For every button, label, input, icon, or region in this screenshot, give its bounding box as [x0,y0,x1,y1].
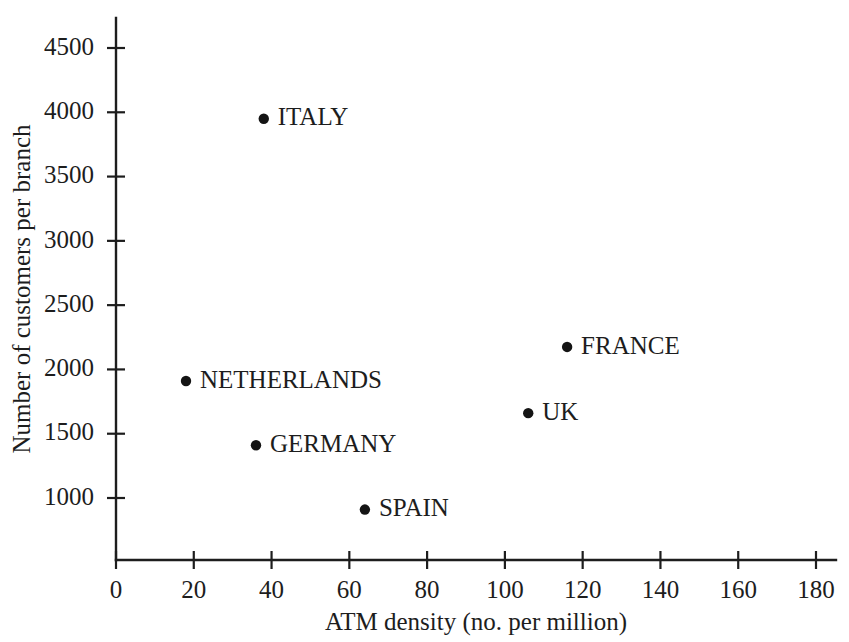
data-point-marker [360,504,370,514]
scatter-chart: 10001500200025003000350040004500 0204060… [0,0,849,642]
data-point-label: FRANCE [581,332,680,359]
data-point-label: ITALY [278,103,348,130]
y-tick-label: 3500 [44,161,94,188]
data-point-label: UK [542,398,578,425]
x-tick-label: 0 [110,576,123,603]
x-tick-label: 40 [259,576,284,603]
axes-group [116,18,836,560]
x-axis-title: ATM density (no. per million) [325,608,627,636]
chart-canvas: 10001500200025003000350040004500 0204060… [0,0,849,642]
x-tick-label: 140 [642,576,680,603]
data-point-label: NETHERLANDS [200,366,382,393]
x-tick-label: 120 [564,576,602,603]
x-tick-label: 160 [719,576,757,603]
x-tick-label: 80 [415,576,440,603]
y-axis-ticks: 10001500200025003000350040004500 [44,33,125,510]
data-point-marker [259,114,269,124]
y-tick-label: 3000 [44,226,94,253]
x-tick-label: 100 [486,576,524,603]
x-tick-label: 60 [337,576,362,603]
data-points-group: ITALYFRANCENETHERLANDSUKGERMANYSPAIN [181,103,680,521]
x-tick-label: 180 [797,576,835,603]
data-point-label: GERMANY [270,430,396,457]
x-tick-label: 20 [181,576,206,603]
data-point-marker [562,342,572,352]
x-axis-ticks: 020406080100120140160180 [110,551,835,603]
data-point-marker [523,408,533,418]
y-tick-label: 4000 [44,97,94,124]
y-tick-label: 2500 [44,290,94,317]
data-point-marker [181,376,191,386]
y-tick-label: 1500 [44,418,94,445]
y-tick-label: 1000 [44,483,94,510]
y-tick-label: 4500 [44,33,94,60]
data-point-label: SPAIN [379,494,449,521]
y-axis-title: Number of customers per branch [8,124,35,454]
data-point-marker [251,440,261,450]
y-tick-label: 2000 [44,354,94,381]
